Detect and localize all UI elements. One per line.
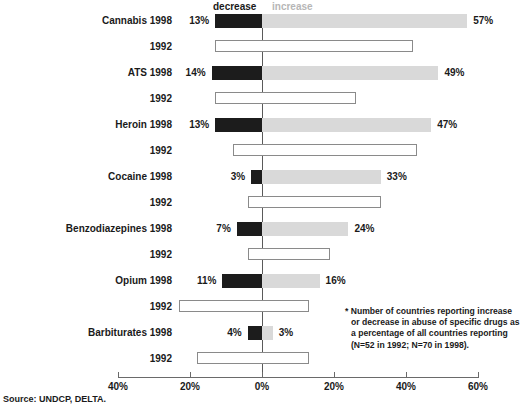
bar-decrease bbox=[222, 274, 262, 288]
value-label-increase: 24% bbox=[354, 222, 374, 236]
bar-1992 bbox=[233, 144, 417, 156]
axis-tick bbox=[262, 372, 263, 378]
value-label-decrease: 11% bbox=[164, 274, 216, 288]
value-label-increase: 47% bbox=[437, 118, 457, 132]
value-label-increase: 49% bbox=[444, 66, 464, 80]
value-label-decrease: 13% bbox=[157, 118, 209, 132]
value-label-increase: 33% bbox=[387, 170, 407, 184]
bar-decrease bbox=[215, 118, 262, 132]
axis-tick-label: 20% bbox=[180, 381, 200, 392]
footnote: * Number of countries reporting increase… bbox=[345, 306, 521, 351]
axis-tick-label: 40% bbox=[108, 381, 128, 392]
value-label-increase: 57% bbox=[473, 14, 493, 28]
bar-decrease bbox=[237, 222, 262, 236]
axis-tick-label: 60% bbox=[468, 381, 488, 392]
bar-decrease bbox=[248, 326, 262, 340]
axis-tick bbox=[406, 372, 407, 378]
footnote-line-3: a percentage of all countries reporting bbox=[345, 328, 521, 339]
value-label-increase: 16% bbox=[326, 274, 346, 288]
bar-increase bbox=[262, 326, 273, 340]
footnote-line-2: or decrease in abuse of specific drugs a… bbox=[345, 317, 521, 328]
bar-1992 bbox=[179, 300, 309, 312]
bar-decrease bbox=[212, 66, 262, 80]
bar-decrease bbox=[215, 14, 262, 28]
bar-1992 bbox=[215, 92, 355, 104]
row-label: 1992 bbox=[0, 341, 172, 377]
axis-tick-label: 40% bbox=[396, 381, 416, 392]
chart-figure: decrease increase Cannabis 199813%57%199… bbox=[0, 0, 522, 408]
axis-tick-label: 0% bbox=[255, 381, 269, 392]
bar-1992 bbox=[248, 248, 331, 260]
bar-increase bbox=[262, 66, 438, 80]
bar-increase bbox=[262, 14, 467, 28]
x-axis-line bbox=[118, 377, 478, 378]
bar-1992 bbox=[197, 352, 309, 364]
bar-1992 bbox=[215, 40, 413, 52]
value-label-increase: 3% bbox=[279, 326, 293, 340]
axis-tick bbox=[190, 372, 191, 378]
value-label-decrease: 13% bbox=[157, 14, 209, 28]
axis-tick-label: 20% bbox=[324, 381, 344, 392]
axis-tick bbox=[478, 372, 479, 378]
axis-tick bbox=[334, 372, 335, 378]
value-label-decrease: 7% bbox=[179, 222, 231, 236]
bar-increase bbox=[262, 274, 320, 288]
value-label-decrease: 3% bbox=[193, 170, 245, 184]
bar-1992 bbox=[248, 196, 381, 208]
source-note: Source: UNDCP, DELTA. bbox=[3, 394, 106, 404]
bar-decrease bbox=[251, 170, 262, 184]
footnote-line-1: * Number of countries reporting increase bbox=[345, 306, 521, 317]
bar-increase bbox=[262, 222, 348, 236]
value-label-decrease: 4% bbox=[190, 326, 242, 340]
bar-increase bbox=[262, 170, 381, 184]
value-label-decrease: 14% bbox=[154, 66, 206, 80]
bar-increase bbox=[262, 118, 431, 132]
footnote-line-4: (N=52 in 1992; N=70 in 1998). bbox=[345, 340, 521, 351]
axis-tick bbox=[118, 372, 119, 378]
